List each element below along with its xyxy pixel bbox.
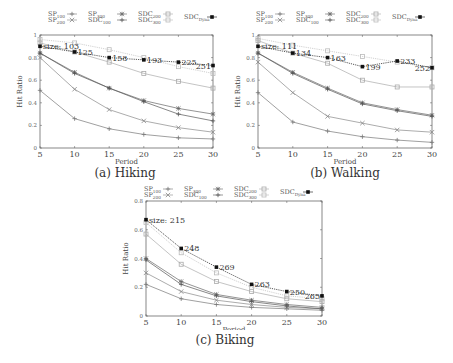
x-axis-label: Period [115,158,138,166]
y-tick-label: 0.2 [246,122,255,128]
y-tick-label: 0.2 [28,122,37,128]
y-tick-label: 0.4 [246,100,255,106]
x-tick-label: 10 [176,318,186,327]
y-tick-label: 0.6 [28,77,37,83]
x-tick-label: 5 [255,150,260,159]
svg-text:SDCDyna: SDCDyna [392,13,418,22]
size-annotation: 125 [78,48,93,57]
chart-biking: SP100SP200SP300SDC100SDC200SDC300SDCDyna… [100,180,353,340]
svg-text:SDC100: SDC100 [296,16,319,25]
svg-text:SDC100: SDC100 [88,16,111,25]
y-tick-label: 0.6 [134,227,143,233]
series-sp-200 [256,60,434,134]
size-annotation: size: 103 [43,42,79,51]
x-tick-label: 25 [282,318,292,327]
caption-biking: (c) Biking [170,333,280,347]
x-tick-label: 20 [357,150,367,159]
x-axis-label: Period [223,326,246,330]
chart-hiking: SP100SP200SP300SDC100SDC200SDC300SDCDyna… [0,0,226,190]
size-annotation: 263 [255,280,270,289]
x-tick-label: 20 [139,150,149,159]
size-annotation: 250 [290,288,305,297]
size-annotation: 251 [196,62,211,71]
y-tick-label: 0.4 [28,100,37,106]
x-tick-label: 10 [288,150,298,159]
legend: SP100SP200SP300SDC100SDC200SDC300SDCDyna [48,10,217,25]
svg-text:SDCDyna: SDCDyna [280,188,306,197]
svg-text:SDC100: SDC100 [184,191,207,200]
size-annotation: 269 [219,263,234,272]
x-tick-label: 5 [37,150,42,159]
x-tick-label: 25 [173,150,183,159]
x-tick-label: 15 [323,150,333,159]
size-annotation: 158 [112,54,127,63]
svg-text:SDCDyna: SDCDyna [184,13,210,22]
size-annotation: 193 [147,56,162,65]
y-tick-label: 0.4 [134,256,143,262]
x-tick-label: 15 [211,318,221,327]
y-tick-label: 0 [140,313,144,319]
y-tick-label: 0.6 [246,77,255,83]
y-axis-label: Hit Ratio [122,242,130,274]
size-annotation: 225 [181,58,196,67]
x-tick-label: 30 [317,318,327,327]
y-tick-label: 0 [34,145,38,151]
caption-hiking: (a) Hiking [70,166,180,180]
x-tick-label: 15 [104,150,114,159]
x-tick-label: 25 [392,150,402,159]
legend: SP100SP200SP300SDC100SDC200SDC300SDCDyna [144,185,313,200]
y-axis-label: Hit Ratio [234,75,242,107]
y-tick-label: 0.2 [134,284,143,290]
walking-plot: SP100SP200SP300SDC100SDC200SDC300SDCDyna… [226,0,453,170]
series-sdc-dyna [144,218,324,298]
size-annotation: 163 [331,54,346,63]
hiking-plot: SP100SP200SP300SDC100SDC200SDC300SDCDyna… [0,0,226,170]
size-annotation: size: 215 [149,216,185,225]
series-sp-100 [38,88,215,141]
biking-plot: SP100SP200SP300SDC100SDC200SDC300SDCDyna… [100,180,353,330]
y-tick-label: 1 [34,32,38,38]
size-annotation: size: 111 [261,42,297,51]
y-tick-label: 1 [252,32,256,38]
series-sp-100 [256,90,434,144]
y-tick-label: 0 [252,145,256,151]
plot-frame [40,35,213,148]
x-tick-label: 5 [143,318,148,327]
size-annotation: 265 [305,292,320,301]
caption-walking: (b) Walking [290,166,400,180]
size-annotation: 134 [296,49,311,58]
size-annotation: 233 [400,57,415,66]
y-tick-label: 0.8 [134,198,143,204]
x-tick-label: 30 [427,150,437,159]
x-tick-label: 20 [247,318,257,327]
x-tick-label: 10 [70,150,80,159]
y-tick-label: 0.8 [246,55,255,61]
x-axis-label: Period [334,158,357,166]
size-annotation: 252 [415,64,430,73]
size-annotation: 199 [365,63,380,72]
legend: SP100SP200SP300SDC100SDC200SDC300SDCDyna [256,10,425,25]
y-tick-label: 0.8 [28,55,37,61]
y-axis-label: Hit Ratio [16,75,24,107]
plot-frame [258,35,432,148]
x-tick-label: 30 [208,150,218,159]
chart-walking: SP100SP200SP300SDC100SDC200SDC300SDCDyna… [226,0,453,190]
size-annotation: 248 [184,244,199,253]
